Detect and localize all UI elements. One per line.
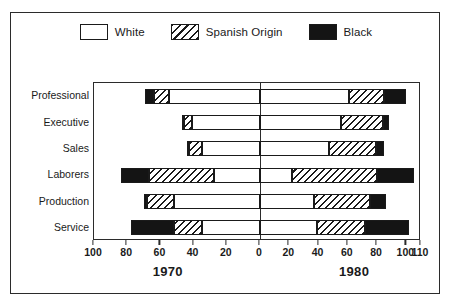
bar-row-executive (94, 115, 419, 130)
segment-1970-hatch (174, 220, 202, 235)
segment-1970-black (131, 220, 174, 235)
segment-1980-white (260, 115, 341, 130)
tick-label-1980-80: 80 (370, 246, 382, 258)
tick-label-1980-60: 60 (341, 246, 353, 258)
segment-1980-white (260, 89, 349, 104)
year-label-1970: 1970 (153, 264, 183, 279)
segment-1970-white (202, 141, 260, 156)
segment-1980-black (377, 168, 414, 183)
category-label-sales: Sales (5, 142, 89, 154)
segment-1970-white (202, 220, 260, 235)
bar-row-laborers (94, 168, 419, 183)
segment-1980-white (260, 141, 329, 156)
legend-swatch-white-icon (80, 24, 108, 40)
segment-1980-hatch (314, 194, 370, 209)
tick-1980-60 (346, 240, 347, 245)
bar-row-sales (94, 141, 419, 156)
tick-label-1980-20: 20 (282, 246, 294, 258)
segment-1980-white (260, 194, 314, 209)
tick-1980-110 (419, 240, 420, 245)
segment-1980-hatch (329, 141, 376, 156)
tick-1970-0 (258, 240, 259, 245)
segment-1980-black (370, 194, 386, 209)
segment-1970-hatch (154, 89, 169, 104)
segment-1980-hatch (292, 168, 377, 183)
segment-1970-hatch (189, 141, 202, 156)
tick-1980-100 (405, 240, 406, 245)
plot-area (93, 82, 420, 240)
legend-label-spanish-origin: Spanish Origin (206, 26, 283, 38)
legend-swatch-spanish-origin-icon (171, 24, 199, 40)
segment-1980-hatch (341, 115, 383, 130)
tick-1970-60 (159, 240, 160, 245)
segment-1980-white (260, 220, 317, 235)
segment-1970-white (169, 89, 260, 104)
value-axis: 1008060402002040608010011019701980 (93, 240, 420, 241)
segment-1970-white (214, 168, 260, 183)
tick-label-1970-40: 40 (187, 246, 199, 258)
legend-item-black: Black (309, 24, 373, 40)
bar-row-service (94, 220, 419, 235)
category-label-executive: Executive (5, 116, 89, 128)
category-label-production: Production (5, 195, 89, 207)
segment-1980-black (384, 89, 406, 104)
segment-1970-hatch (184, 115, 192, 130)
tick-1970-40 (192, 240, 193, 245)
bar-row-professional (94, 89, 419, 104)
tick-1970-20 (225, 240, 226, 245)
tick-1980-20 (288, 240, 289, 245)
chart-legend: White Spanish Origin Black (0, 24, 452, 40)
segment-1970-black (121, 168, 149, 183)
segment-1980-hatch (317, 220, 365, 235)
tick-label-1980-110: 110 (412, 246, 429, 258)
tick-label-1970-20: 20 (220, 246, 232, 258)
bar-row-production (94, 194, 419, 209)
tick-1970-100 (92, 240, 93, 245)
legend-item-white: White (80, 24, 145, 40)
year-label-1980: 1980 (339, 264, 369, 279)
category-label-service: Service (5, 221, 89, 233)
segment-1970-hatch (149, 168, 214, 183)
category-axis-labels: ProfessionalExecutiveSalesLaborersProduc… (0, 82, 89, 240)
segment-1970-black (145, 89, 153, 104)
tick-1970-80 (126, 240, 127, 245)
category-label-laborers: Laborers (5, 168, 89, 180)
segment-1980-hatch (349, 89, 384, 104)
legend-label-black: Black (344, 26, 373, 38)
tick-label-1980-40: 40 (312, 246, 324, 258)
segment-1980-white (260, 168, 292, 183)
category-label-professional: Professional (5, 89, 89, 101)
tick-1980-40 (317, 240, 318, 245)
segment-1980-black (365, 220, 409, 235)
segment-1970-white (174, 194, 260, 209)
tick-1980-80 (375, 240, 376, 245)
legend-swatch-black-icon (309, 24, 337, 40)
legend-label-white: White (115, 26, 145, 38)
segment-1980-black (383, 115, 389, 130)
segment-1980-black (376, 141, 385, 156)
zero-baseline (260, 83, 261, 239)
legend-item-spanish-origin: Spanish Origin (171, 24, 283, 40)
segment-1970-white (192, 115, 260, 130)
segment-1970-hatch (147, 194, 174, 209)
tick-label-1970-80: 80 (120, 246, 132, 258)
tick-label-1970-0: 0 (256, 246, 262, 258)
tick-label-1970-60: 60 (154, 246, 166, 258)
tick-label-1970-100: 100 (84, 246, 102, 258)
